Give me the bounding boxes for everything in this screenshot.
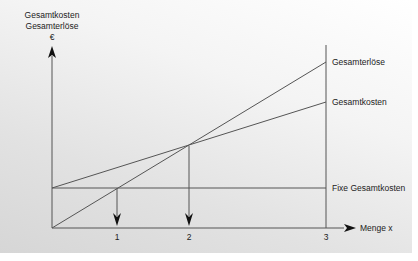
total-cost-label: Gesamtkosten — [332, 97, 387, 107]
x-tick-3: 3 — [324, 232, 329, 242]
y-axis-unit: € — [50, 32, 55, 42]
chart-frame: 1 2 3 Gesamtkosten Gesamterlöse € Gesamt… — [0, 0, 418, 261]
y-axis — [48, 46, 56, 228]
x-axis — [52, 224, 356, 232]
y-axis-label-line2: Gesamterlöse — [26, 21, 79, 31]
drop-arrow-1 — [113, 188, 121, 226]
y-axis-label-line1: Gesamtkosten — [25, 10, 80, 20]
revenue-label: Gesamterlöse — [332, 57, 385, 67]
x-tick-2: 2 — [187, 232, 192, 242]
x-tick-1: 1 — [115, 232, 120, 242]
x-axis-arrow-icon — [344, 224, 356, 232]
fixed-cost-label: Fixe Gesamtkosten — [332, 183, 405, 193]
chart-svg: 1 2 3 Gesamtkosten Gesamterlöse € Gesamt… — [0, 0, 418, 261]
drop-arrow-2 — [185, 146, 193, 226]
x-axis-label: Menge x — [360, 223, 393, 233]
